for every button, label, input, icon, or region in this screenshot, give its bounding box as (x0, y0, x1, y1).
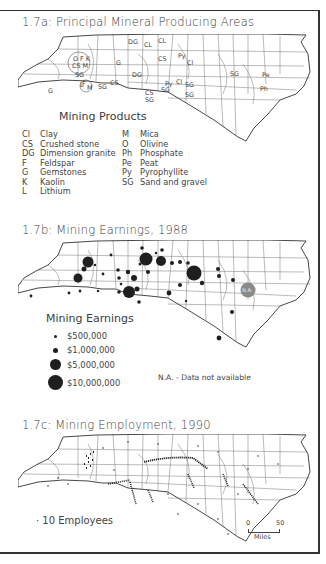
legend-item: PhPhosphate (122, 148, 183, 158)
legend-item: PePeat (122, 158, 158, 168)
employees-legend: · 10 Employees (36, 515, 113, 526)
bubble-5m (50, 359, 61, 370)
svg-text:G: G (48, 87, 53, 95)
svg-text:CS: CS (110, 79, 119, 87)
legend-item: OOlivine (122, 139, 168, 149)
svg-text:Py: Py (178, 52, 186, 60)
svg-text:DG: DG (132, 71, 142, 79)
legend-item: CSCrushed stone (22, 139, 99, 149)
svg-text:SG: SG (75, 71, 84, 79)
svg-text:SG: SG (185, 81, 194, 89)
bubble-500k (54, 335, 57, 338)
svg-text:SG: SG (230, 70, 239, 78)
legend-item: $1,000,000 (47, 345, 115, 355)
svg-text:DG: DG (128, 38, 138, 46)
legend-item: $500,000 (47, 331, 107, 341)
legend-item: $10,000,000 (47, 375, 120, 390)
svg-text:Pe: Pe (262, 71, 270, 79)
svg-text:F: F (82, 80, 86, 88)
bubble-1m (53, 348, 58, 353)
scale-bar: 0 50 Miles (246, 519, 286, 543)
panel-b-title: 1.7b: Mining Earnings, 1988 (22, 223, 188, 237)
panel-c-title: 1.7c: Mining Employment, 1990 (22, 418, 211, 432)
svg-text:SG: SG (145, 96, 154, 104)
svg-text:CS: CS (158, 55, 167, 63)
mineral-areas-map: DG CL CL CS Py Cl O F K CS M G SG L DG G… (18, 34, 314, 146)
earnings-bubbles (30, 246, 235, 340)
bubble-10m (48, 375, 63, 390)
svg-text:CL: CL (158, 37, 166, 45)
mining-earnings-legend-title: Mining Earnings (46, 312, 134, 325)
legend-item: ClClay (22, 129, 58, 139)
legend-item: GGemstones (22, 167, 86, 177)
svg-text:Cl: Cl (187, 59, 193, 67)
legend-item: MMica (122, 129, 159, 139)
legend-item: PyPyrophyllite (122, 167, 188, 177)
legend-item: LLithium (22, 186, 71, 196)
svg-text:SG: SG (98, 83, 107, 91)
svg-text:N.A.: N.A. (242, 287, 253, 293)
legend-item: $5,000,000 (47, 359, 115, 370)
panel-a-title: 1.7a: Principal Mineral Producing Areas (22, 15, 254, 29)
legend-item: SGSand and gravel (122, 177, 207, 187)
legend-item: FFeldspar (22, 158, 75, 168)
legend-item: DGDimension granite (22, 148, 115, 158)
svg-text:Cl: Cl (176, 78, 182, 86)
svg-text:CS M: CS M (72, 62, 88, 70)
svg-text:M: M (87, 84, 93, 92)
svg-text:Ph: Ph (260, 85, 268, 93)
svg-text:SG: SG (161, 86, 170, 94)
svg-text:CL: CL (144, 41, 152, 49)
svg-text:SG: SG (185, 91, 194, 99)
na-note: N.A. - Data not available (158, 373, 251, 382)
svg-text:G: G (116, 59, 121, 67)
legend-item: KKaolin (22, 177, 65, 187)
mining-products-legend-title: Mining Products (59, 110, 147, 123)
